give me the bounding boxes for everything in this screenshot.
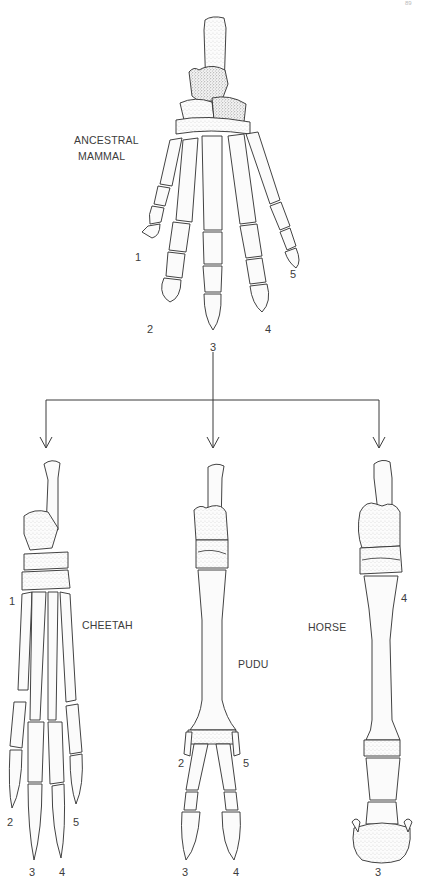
branch-arrows: [40, 352, 385, 448]
cheetah-skeleton: [9, 461, 82, 860]
horse-skeleton: [352, 460, 412, 863]
pudu-digit-3: 3: [182, 867, 188, 878]
cheetah-digit-4: 4: [59, 867, 65, 878]
cheetah-digit-1: 1: [9, 596, 15, 607]
horse-label: HORSE: [308, 622, 346, 633]
ancestral-label-line1: ANCESTRAL: [74, 135, 139, 146]
pudu-digit-2: 2: [178, 758, 184, 769]
pudu-digit-5: 5: [243, 758, 249, 769]
ancestral-digit-5: 5: [290, 269, 296, 280]
ancestral-digit-4: 4: [265, 324, 271, 335]
pudu-skeleton: [182, 464, 241, 860]
cheetah-digit-2: 2: [7, 817, 13, 828]
ancestral-digit-2: 2: [147, 324, 153, 335]
cheetah-label: CHEETAH: [82, 620, 133, 631]
illustration-canvas: [0, 0, 425, 888]
ancestral-mammal-skeleton: [142, 17, 299, 330]
pudu-label: PUDU: [238, 659, 269, 670]
cheetah-digit-5: 5: [73, 817, 79, 828]
horse-digit-3: 3: [375, 867, 381, 878]
cheetah-digit-3: 3: [29, 867, 35, 878]
evolution-diagram: 89: [0, 0, 425, 888]
horse-digit-4: 4: [401, 593, 407, 604]
pudu-digit-4: 4: [233, 867, 239, 878]
ancestral-digit-3: 3: [210, 342, 216, 353]
ancestral-label-line2: MAMMAL: [78, 151, 125, 162]
ancestral-digit-1: 1: [135, 252, 141, 263]
